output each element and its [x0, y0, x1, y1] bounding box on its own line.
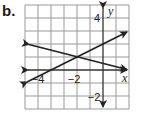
y-tick-4: 4 — [94, 12, 100, 24]
y-axis-label: y — [107, 4, 114, 18]
y-tick-neg2: −2 — [88, 91, 101, 103]
x-tick-neg4: −4 — [32, 73, 45, 85]
x-tick-neg2: −2 — [68, 73, 81, 85]
x-axis-label: x — [121, 71, 128, 85]
coordinate-graph: −4 −2 4 −2 x y — [0, 0, 141, 117]
